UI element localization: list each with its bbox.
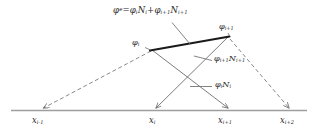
element-interpolation-equation: φe=φiNi+φi+1Ni+1 [113,6,188,16]
dashed-right-leg [230,39,289,108]
eq-equals: = [122,5,129,15]
figure-canvas: φe=φiNi+φi+1Ni+1 φi φi+1 φi+1Ni+1 φiNi x… [0,0,314,138]
term-N: N [229,53,236,63]
eq-phi2-sub: i+1 [161,9,171,15]
eq-N2: N [170,5,178,15]
phi-ip1-leader-line [228,33,230,36]
phi-i-sub: i [138,41,140,47]
axis-tick-label-x-i: xi [149,116,155,125]
eq-N2-sub: i+1 [178,9,188,15]
tick3-sub: i+2 [285,119,294,125]
tick0-sub: i-1 [37,119,44,125]
label-phi-i-plus-1: φi+1 [219,22,234,31]
label-phi-i: φi [132,38,139,47]
term2-N: N [222,79,229,89]
label-phi-ip1-N-ip1: φi+1Ni+1 [214,54,245,63]
phi-i-leader-line [145,48,151,51]
phi-ip1-N-ip1-leader-line [194,56,212,61]
axis-tick-label-x-ip1: xi+1 [218,116,232,125]
term2-N-sub: i [230,83,232,89]
axis-tick-label-x-ip2: xi+2 [280,116,294,125]
phi-ip1-sub: i+1 [225,25,234,31]
term-N-sub: i+1 [236,57,245,63]
tick1-sub: i [154,119,156,125]
term-phi-sub: i+1 [220,57,229,63]
tick2-sub: i+1 [223,119,232,125]
axis-tick-label-x-im1: xi-1 [32,116,43,125]
equation-leader-line [172,23,190,45]
label-phi-i-N-i: φiNi [215,80,231,89]
dashed-left-leg [44,51,152,108]
diagram-svg [0,0,314,138]
